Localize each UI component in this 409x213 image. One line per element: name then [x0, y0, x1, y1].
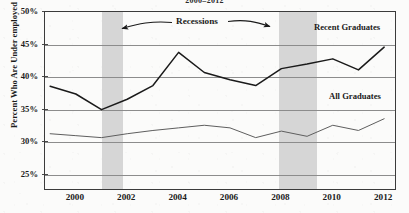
chart-figure: 2000–2012 Percent Who Are Under employed…	[0, 0, 409, 213]
series-label-all-graduates: All Graduates	[329, 91, 381, 101]
series-label-recent-graduates: Recent Graduates	[314, 22, 380, 32]
